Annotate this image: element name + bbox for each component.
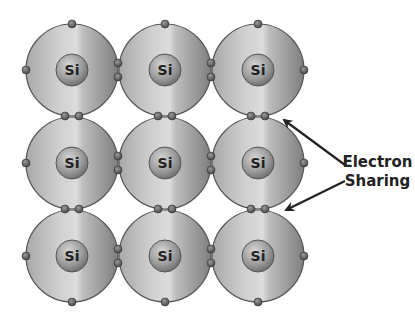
silicon-atom: Si [212,117,304,209]
electron [300,66,308,74]
electron [154,112,162,120]
electron [61,205,69,213]
atom-symbol: Si [251,248,266,264]
electron [161,20,169,28]
electron [61,112,69,120]
electron [207,59,215,67]
silicon-atom: Si [26,210,118,302]
silicon-atom: Si [119,117,211,209]
electron [68,20,76,28]
atom-symbol: Si [65,155,80,171]
electron [254,20,262,28]
electron [114,73,122,81]
atom-symbol: Si [158,248,173,264]
electron [207,73,215,81]
electron [247,112,255,120]
electron [22,66,30,74]
electron [75,205,83,213]
electron [168,112,176,120]
electron [300,252,308,260]
electron [207,259,215,267]
electron [154,205,162,213]
label-line-1: Electron [340,153,415,172]
silicon-atom: Si [119,210,211,302]
silicon-atom: Si [119,24,211,116]
electron [68,298,76,306]
electron [254,298,262,306]
electron [261,112,269,120]
atom-symbol: Si [251,155,266,171]
electron [207,245,215,253]
electron-sharing-label: Electron Sharing [340,153,415,191]
electron [168,205,176,213]
electron [161,298,169,306]
silicon-atom: Si [26,117,118,209]
silicon-atom: Si [212,210,304,302]
electron [247,205,255,213]
electron [22,252,30,260]
electron [114,245,122,253]
silicon-atom: Si [26,24,118,116]
electron [207,152,215,160]
silicon-atom: Si [212,24,304,116]
electron [22,159,30,167]
atom-symbol: Si [251,62,266,78]
electron [114,59,122,67]
label-line-2: Sharing [340,172,415,191]
electron [261,205,269,213]
atom-symbol: Si [158,62,173,78]
atom-symbol: Si [65,62,80,78]
electron [207,166,215,174]
electron [75,112,83,120]
electron [114,152,122,160]
electron [300,159,308,167]
atom-symbol: Si [158,155,173,171]
electron [114,166,122,174]
electron [114,259,122,267]
atom-symbol: Si [65,248,80,264]
